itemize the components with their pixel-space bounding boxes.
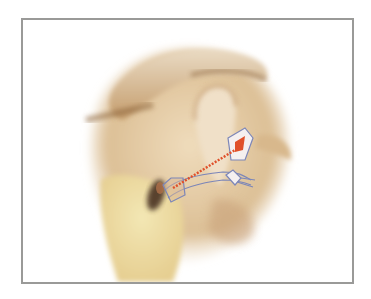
ear-illustration: [23, 20, 352, 282]
illustration-frame: [21, 18, 354, 284]
